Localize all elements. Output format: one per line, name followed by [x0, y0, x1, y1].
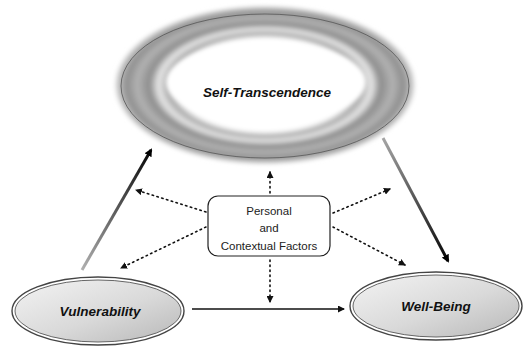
self-transcendence-center: [166, 42, 366, 122]
factors-line-2: and: [259, 222, 278, 234]
dotted-arrow-to-right-path: [333, 189, 390, 213]
dotted-arrow-to-vulnerability: [121, 227, 206, 268]
dotted-arrow-to-well-being: [333, 227, 405, 265]
node-well-being: Well-Being: [350, 272, 522, 340]
node-self-transcendence: Self-Transcendence: [113, 5, 417, 165]
dotted-arrow-to-left-path: [136, 190, 206, 212]
vulnerability-label: Vulnerability: [60, 304, 142, 319]
node-personal-contextual-factors: Personal and Contextual Factors: [208, 196, 330, 256]
arrow-self-transcendence-to-well-being: [383, 138, 448, 261]
factors-line-3: Contextual Factors: [221, 240, 318, 252]
node-vulnerability: Vulnerability: [12, 277, 184, 345]
arrow-vulnerability-to-self-transcendence: [82, 150, 151, 270]
factors-line-1: Personal: [246, 205, 291, 217]
well-being-label: Well-Being: [401, 299, 471, 314]
self-transcendence-label: Self-Transcendence: [203, 85, 332, 100]
self-transcendence-model-diagram: Self-Transcendence Vulnerability Well-Be…: [0, 0, 532, 350]
